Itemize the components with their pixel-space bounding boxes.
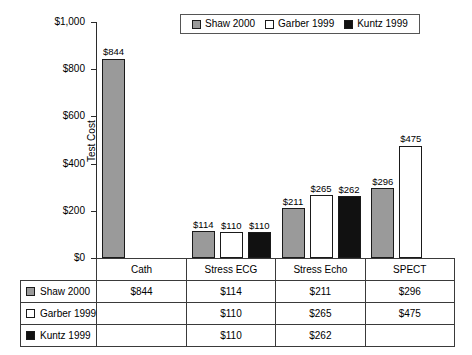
table-row: Kuntz 1999$110$262: [21, 325, 455, 347]
bar-value-label: $262: [338, 185, 359, 195]
table-cell: [365, 325, 454, 347]
table-column-header: Stress ECG: [186, 259, 275, 281]
bar-value-label: $475: [400, 134, 421, 144]
data-table: CathStress ECGStress EchoSPECTShaw 2000$…: [20, 258, 455, 347]
table-cell: $110: [186, 303, 275, 325]
bar[interactable]: [102, 59, 125, 258]
table-row-header: Garber 1999: [21, 303, 97, 325]
bar[interactable]: [282, 208, 305, 258]
y-axis-tick-label: $200: [63, 206, 85, 216]
table-cell: [97, 303, 186, 325]
bar[interactable]: [220, 232, 243, 258]
table-cell: $844: [97, 281, 186, 303]
bar[interactable]: [371, 188, 394, 258]
table-cell: $262: [276, 325, 365, 347]
bar-value-label: $114: [193, 220, 213, 230]
table-cell: $475: [365, 303, 454, 325]
bar[interactable]: [399, 146, 422, 258]
table-swatch-white: [26, 309, 35, 318]
bar-value-label: $110: [249, 221, 269, 231]
y-axis-tick-label: $1,000: [54, 17, 85, 27]
table-cell: $296: [365, 281, 454, 303]
bar-value-label: $211: [283, 197, 303, 207]
plot-area: Test Cost $844$114$110$110$211$265$262$2…: [96, 22, 455, 258]
table-corner-cell: [21, 259, 97, 281]
table-column-header: Stress Echo: [276, 259, 365, 281]
y-axis-title: Test Cost: [87, 120, 97, 162]
bar[interactable]: [310, 195, 333, 258]
bar[interactable]: [248, 232, 271, 258]
table-row: Shaw 2000$844$114$211$296: [21, 281, 455, 303]
table-row-header: Kuntz 1999: [21, 325, 97, 347]
table-row-label: Shaw 2000: [40, 286, 90, 297]
table-column-header: SPECT: [365, 259, 454, 281]
table-row-label: Kuntz 1999: [40, 330, 91, 341]
table-swatch-black: [26, 331, 35, 340]
table-cell: $114: [186, 281, 275, 303]
y-axis-tick-label: $400: [63, 159, 85, 169]
table-row: Garber 1999$110$265$475: [21, 303, 455, 325]
bar-value-label: $296: [372, 177, 393, 187]
table-cell: $211: [276, 281, 365, 303]
y-axis-tick-label: $800: [63, 64, 85, 74]
table-cell: $110: [186, 325, 275, 347]
y-axis-tick-label: $600: [63, 111, 85, 121]
table-cell: [97, 325, 186, 347]
table-row-header: Shaw 2000: [21, 281, 97, 303]
bar[interactable]: [338, 196, 361, 258]
chart-figure: Shaw 2000Garber 1999Kuntz 1999 $1,000$80…: [0, 0, 472, 355]
table-header-row: CathStress ECGStress EchoSPECT: [21, 259, 455, 281]
table-cell: $265: [276, 303, 365, 325]
bar-value-label: $110: [221, 221, 241, 231]
bar-value-label: $844: [103, 47, 124, 57]
table-row-label: Garber 1999: [40, 308, 96, 319]
table-swatch-gray: [26, 287, 35, 296]
table-column-header: Cath: [97, 259, 186, 281]
bar[interactable]: [192, 231, 215, 258]
bar-value-label: $265: [310, 184, 331, 194]
